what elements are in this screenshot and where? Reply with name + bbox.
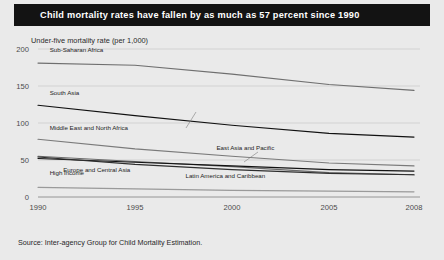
page-title: Child mortality rates have fallen by as …: [14, 10, 360, 20]
y-tick-label: 200: [16, 45, 29, 54]
series-label: Middle East and North Africa: [50, 124, 129, 131]
series-label: South Asia: [50, 89, 80, 96]
x-tick-label: 1995: [127, 203, 144, 212]
series-line: [38, 187, 414, 191]
series-line: [38, 105, 414, 137]
source-note: Source: Inter-agency Group for Child Mor…: [18, 238, 202, 247]
series-label: High income: [50, 169, 85, 176]
x-tick-label: 1990: [30, 203, 47, 212]
y-tick-label: 100: [16, 119, 29, 128]
label-leader-line: [186, 112, 196, 128]
title-bar: Child mortality rates have fallen by as …: [14, 4, 430, 26]
series-label: Sub-Saharan Africa: [50, 46, 104, 53]
y-tick-label: 150: [16, 82, 29, 91]
line-chart: 05010015020019901995200020052008Sub-Saha…: [0, 40, 444, 220]
x-tick-label: 2008: [406, 203, 423, 212]
series-label: Latin America and Caribbean: [185, 172, 265, 179]
x-tick-label: 2000: [224, 203, 241, 212]
y-tick-label: 50: [21, 156, 29, 165]
chart-plot: 05010015020019901995200020052008Sub-Saha…: [0, 40, 444, 220]
chart-page: Child mortality rates have fallen by as …: [0, 0, 444, 260]
x-tick-label: 2005: [321, 203, 338, 212]
y-tick-label: 0: [25, 193, 29, 202]
series-label: East Asia and Pacific: [216, 144, 274, 151]
